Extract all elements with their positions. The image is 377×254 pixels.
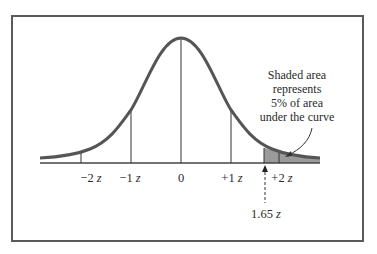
normal-curve-diagram: −2 z −1 z 0 +1 z +2 z 1.65 z Shaded area… (0, 0, 377, 254)
label-plus-1z: +1 z (221, 171, 242, 185)
annotation-line-3: 5% of area (271, 96, 324, 110)
annotation-arrow (288, 128, 312, 155)
label-minus-2z: −2 z (80, 171, 101, 185)
arrow-up-icon (262, 165, 268, 172)
annotation-line-1: Shaded area (268, 68, 327, 82)
annotation-line-4: under the curve (260, 110, 335, 124)
annotation-line-2: represents (273, 82, 322, 96)
label-zero: 0 (178, 171, 184, 185)
label-critical-value: 1.65 z (251, 207, 281, 221)
label-plus-2z: +2 z (271, 171, 292, 185)
label-minus-1z: −1 z (119, 171, 140, 185)
